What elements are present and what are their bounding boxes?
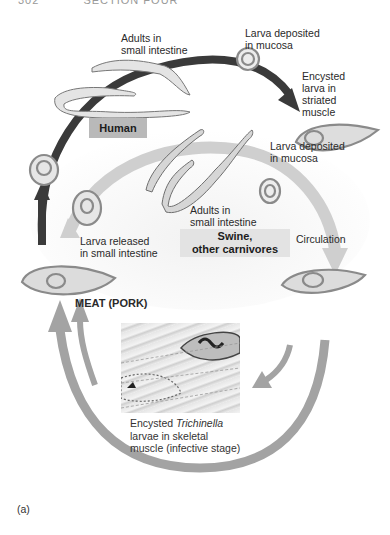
micrograph-encysted-larvae: [121, 323, 240, 413]
label-encysted-striated-muscle: Encysted larva in striated muscle: [302, 70, 345, 118]
caption-line2: larvae in skeletal: [130, 430, 240, 443]
label-human-adults: Adults in small intestine: [121, 32, 188, 56]
caption-line1-prefix: Encysted: [130, 417, 176, 429]
figure-label: (a): [17, 503, 30, 515]
label-meat-pork: MEAT (PORK): [75, 297, 148, 309]
label-larva-released: Larva released in small intestine: [80, 235, 158, 259]
host-box-human: Human: [89, 118, 147, 138]
label-swine-adults: Adults in small intestine: [190, 204, 257, 228]
caption-line3: muscle (infective stage): [130, 442, 240, 455]
human-adult-worms: [55, 60, 190, 118]
host-box-swine: Swine, other carnivores: [180, 229, 290, 257]
label-circulation: Circulation: [296, 233, 346, 245]
label-human-larva-deposited: Larva deposited in mucosa: [245, 27, 320, 51]
trichinella-life-cycle-figure: 302 SECTION FOUR: [0, 0, 390, 535]
photo-caption: Encysted Trichinella larvae in skeletal …: [130, 417, 240, 455]
caption-genus-name: Trichinella: [176, 417, 223, 429]
label-swine-larva-deposited: Larva deposited in mucosa: [270, 140, 345, 164]
